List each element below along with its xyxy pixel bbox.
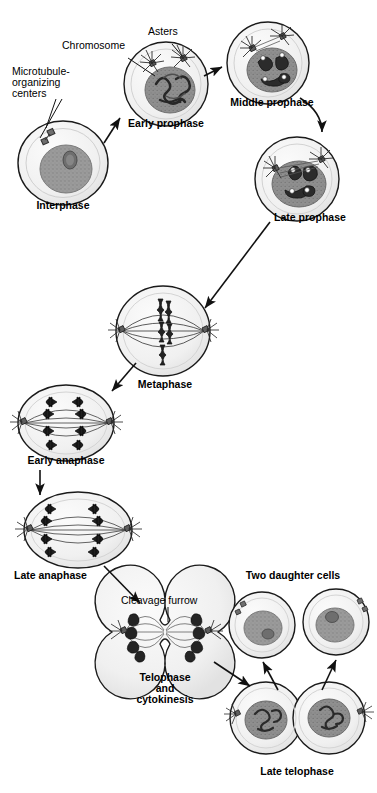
cell-late-prophase <box>255 137 339 221</box>
stage-label-early-anaphase: Early anaphase <box>27 455 104 466</box>
callout-cleavage-furrow: Cleavage furrow <box>121 595 197 606</box>
stage-label-late-anaphase: Late anaphase <box>14 570 87 581</box>
stage-label-middle-prophase: Middle prophase <box>230 97 313 108</box>
stage-label-late-telophase: Late telophase <box>260 766 334 777</box>
stage-label-metaphase: Metaphase <box>138 379 192 390</box>
stage-label-telophase-cytokinesis: Telophase and cytokinesis <box>136 672 193 705</box>
callout-two-daughter-cells: Two daughter cells <box>246 570 340 581</box>
cell-metaphase <box>108 286 219 376</box>
stage-label-late-prophase: Late prophase <box>274 212 346 223</box>
cell-late-telophase <box>224 682 374 754</box>
cells-two-daughter <box>229 589 369 658</box>
cell-early-prophase <box>124 42 208 126</box>
cell-early-anaphase <box>10 385 123 461</box>
callout-asters: Asters <box>148 26 178 37</box>
callout-mtoc: Microtubule- organizing centers <box>12 66 70 99</box>
mitosis-diagram: Microtubule- organizing centers Chromoso… <box>0 0 377 793</box>
cell-interphase <box>18 121 108 205</box>
callout-chromosome: Chromosome <box>62 40 125 51</box>
stage-label-interphase: Interphase <box>36 200 89 211</box>
leader-lines <box>40 44 182 622</box>
cell-middle-prophase <box>227 22 309 104</box>
stage-label-early-prophase: Early prophase <box>128 118 204 129</box>
cell-late-anaphase <box>15 492 142 568</box>
